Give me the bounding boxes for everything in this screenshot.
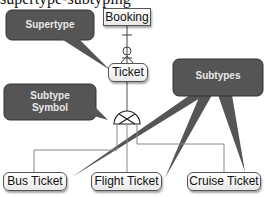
subtype-connectors — [34, 124, 224, 172]
subtype-symbol-icon — [114, 111, 140, 124]
relationship-line-booking-ticket — [121, 25, 133, 63]
entity-cruise-ticket[interactable]: Cruise Ticket — [187, 172, 261, 191]
callout-subtypes-label: Subtypes — [173, 70, 263, 82]
callout-subtype-symbol-label-1: Subtype — [4, 90, 96, 102]
entity-ticket[interactable]: Ticket — [108, 63, 148, 82]
callout-supertype-label: Supertype — [6, 19, 94, 31]
callout-subtype-symbol-label-2: Symbol — [4, 102, 96, 114]
entity-booking[interactable]: Booking — [103, 8, 151, 26]
entity-flight-ticket[interactable]: Flight Ticket — [91, 172, 162, 191]
entity-bus-ticket[interactable]: Bus Ticket — [3, 172, 67, 191]
